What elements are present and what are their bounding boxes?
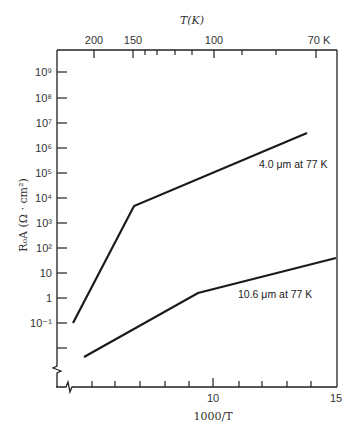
y-axis-tick-labels: 10⁹ 10⁸ 10⁷ 10⁶ 10⁵ 10⁴ 10³ 10² 10 1 10⁻… xyxy=(30,66,52,329)
top-axis-ticks xyxy=(94,50,316,58)
y-tick-label: 10⁴ xyxy=(35,192,52,204)
x-axis-ticks xyxy=(92,378,311,387)
top-tick-label-150: 150 xyxy=(124,34,142,46)
y-tick-label: 10² xyxy=(36,242,52,254)
chart-canvas: 200 150 100 70 K T(K) 10⁹ 10⁸ 10⁷ 10⁶ 10… xyxy=(0,0,355,432)
top-axis-title: T(K) xyxy=(180,14,204,27)
top-tick-label-70: 70 K xyxy=(308,34,331,46)
y-axis-title: R₀A (Ω · cm²) xyxy=(17,178,30,251)
y-tick-label: 10⁹ xyxy=(35,66,52,78)
plot-frame xyxy=(53,50,337,392)
top-tick-label-200: 200 xyxy=(85,34,103,46)
y-tick-label: 10⁵ xyxy=(35,167,52,179)
series-10-6um-line xyxy=(84,258,336,357)
y-tick-label: 10³ xyxy=(36,217,52,229)
top-tick-label-100: 100 xyxy=(205,34,223,46)
x-tick-label-10: 10 xyxy=(207,392,219,404)
series-10-6um-annotation: 10.6 μm at 77 K xyxy=(238,288,312,300)
x-axis-title: 1000/T xyxy=(193,410,233,423)
x-tick-label-15: 15 xyxy=(330,392,342,404)
y-tick-label: 1 xyxy=(46,292,52,304)
y-tick-label: 10⁸ xyxy=(35,92,52,104)
y-tick-label: 10⁻¹ xyxy=(30,317,52,329)
y-tick-label: 10⁶ xyxy=(35,142,52,154)
y-tick-label: 10 xyxy=(40,267,52,279)
y-tick-label: 10⁷ xyxy=(36,117,52,129)
y-axis-ticks xyxy=(57,72,67,348)
top-axis-tick-labels: 200 150 100 70 K xyxy=(85,34,331,46)
series-4um-annotation: 4.0 μm at 77 K xyxy=(259,158,328,170)
